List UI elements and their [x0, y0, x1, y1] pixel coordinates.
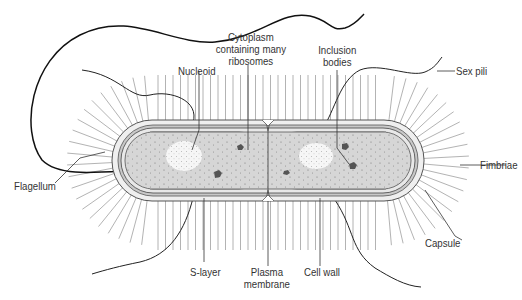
label-flagellum: Flagellum	[14, 180, 56, 192]
pilus-top-left	[82, 70, 194, 123]
label-cytoplasm: Cytoplasm containing many ribosomes	[215, 31, 287, 67]
label-inclusion-line1: Inclusion	[317, 44, 357, 56]
label-cytoplasm-line2: containing many	[215, 43, 287, 55]
label-cytoplasm-line1: Cytoplasm	[215, 31, 287, 43]
label-cytoplasm-line3: ribosomes	[215, 55, 287, 67]
label-inclusion-bodies: Inclusion bodies	[317, 44, 357, 68]
label-inclusion-line2: bodies	[317, 56, 357, 68]
label-plasma-line1: Plasma	[243, 266, 291, 278]
label-plasma-line2: membrane	[243, 278, 291, 290]
nucleoid-left	[166, 141, 202, 171]
nucleoid-right	[299, 143, 333, 169]
label-fimbriae: Fimbriae	[480, 159, 518, 171]
label-cell-wall: Cell wall	[304, 266, 340, 278]
label-capsule: Capsule	[425, 237, 460, 249]
label-plasma-membrane: Plasma membrane	[243, 266, 291, 290]
label-nucleoid: Nucleoid	[178, 65, 216, 77]
pilus-bottom-right	[335, 200, 421, 287]
label-sex-pili: Sex pili	[456, 65, 487, 77]
label-s-layer: S-layer	[190, 266, 221, 278]
